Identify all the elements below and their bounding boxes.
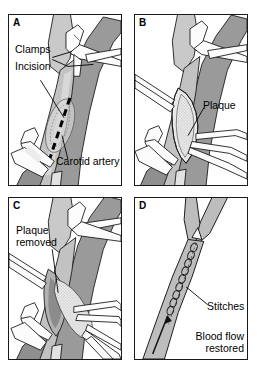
carotid-endarterectomy-figure: A — [0, 0, 257, 369]
label-plaque-removed: Plaque removed — [16, 224, 57, 248]
panel-d: D — [134, 197, 248, 360]
label-plaque-removed-text: Plaque removed — [16, 224, 57, 248]
leader-stitches — [186, 287, 208, 305]
label-clamps: Clamps — [15, 44, 51, 56]
panel-a-letter: A — [13, 17, 20, 28]
panel-b-letter: B — [139, 17, 146, 28]
label-blood-flow-restored: Blood flow restored — [182, 330, 244, 354]
panel-c-letter: C — [13, 200, 20, 211]
panel-d-letter: D — [139, 200, 146, 211]
label-incision: Incision — [15, 61, 51, 73]
panel-a: A — [8, 14, 122, 186]
label-plaque: Plaque — [203, 100, 236, 112]
vessel-stub-bottom — [50, 344, 62, 359]
vessel-stub-bottom — [50, 171, 62, 185]
label-stitches: Stitches — [207, 301, 244, 313]
label-carotid-artery: Carotid artery — [56, 156, 120, 168]
panel-c-illustration — [9, 198, 121, 359]
panel-b: B — [134, 14, 248, 186]
vessel-stub-bottom — [174, 169, 186, 185]
panel-c: C — [8, 197, 122, 360]
